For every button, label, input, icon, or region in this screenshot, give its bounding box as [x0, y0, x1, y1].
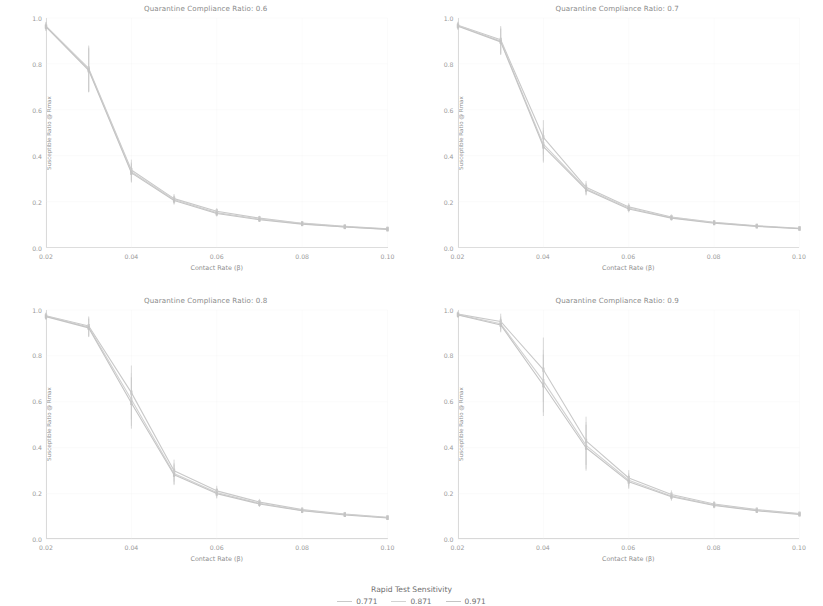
y-tick-label: 0.2 — [32, 198, 42, 205]
y-tick-label: 0.4 — [444, 444, 454, 451]
legend-item[interactable]: 0.971 — [446, 597, 486, 606]
panel-title: Quarantine Compliance Ratio: 0.7 — [412, 4, 823, 13]
x-tick-label: 0.02 — [451, 253, 465, 260]
facet-panel-1: Quarantine Compliance Ratio: 0.7 Suscept… — [412, 0, 823, 292]
x-tick-label: 0.10 — [381, 544, 395, 551]
x-tick-label: 0.10 — [792, 544, 806, 551]
y-tick-label: 0.6 — [444, 106, 454, 113]
y-tick-label: 0.4 — [32, 444, 42, 451]
x-tick-label: 0.02 — [39, 253, 53, 260]
panel-title: Quarantine Compliance Ratio: 0.8 — [0, 296, 412, 305]
x-tick-label: 0.04 — [124, 544, 138, 551]
plot-canvas — [458, 310, 800, 540]
legend-line-icon — [337, 601, 352, 602]
y-tick-label: 1.0 — [444, 306, 454, 313]
y-tick-label: 1.0 — [32, 306, 42, 313]
facet-panel-3: Quarantine Compliance Ratio: 0.9 Suscept… — [412, 292, 823, 584]
y-tick-label: 0.8 — [32, 60, 42, 67]
plot-canvas — [458, 18, 800, 248]
x-axis-label: Contact Rate (β) — [46, 264, 388, 272]
facet-panel-2: Quarantine Compliance Ratio: 0.8 Suscept… — [0, 292, 412, 584]
x-tick-label: 0.10 — [381, 253, 395, 260]
x-tick-label: 0.08 — [707, 544, 721, 551]
x-tick-label: 0.04 — [124, 253, 138, 260]
plot-canvas — [46, 310, 388, 540]
x-axis-label: Contact Rate (β) — [458, 555, 800, 563]
facet-panel-0: Quarantine Compliance Ratio: 0.6 Suscept… — [0, 0, 412, 292]
x-axis-label: Contact Rate (β) — [458, 264, 800, 272]
y-tick-label: 0.0 — [32, 536, 42, 543]
plot-area: Susceptible Ratio @ Rmax 0.00.20.40.60.8… — [458, 310, 800, 540]
legend-items: 0.7710.8710.971 — [337, 597, 486, 606]
y-tick-label: 0.2 — [444, 490, 454, 497]
legend-item-label: 0.771 — [356, 597, 377, 606]
legend-title: Rapid Test Sensitivity — [371, 585, 452, 594]
y-tick-label: 0.6 — [32, 398, 42, 405]
y-tick-label: 1.0 — [32, 15, 42, 22]
plot-canvas — [46, 18, 388, 248]
x-tick-label: 0.08 — [295, 544, 309, 551]
y-tick-label: 0.2 — [32, 490, 42, 497]
panel-title: Quarantine Compliance Ratio: 0.6 — [0, 4, 412, 13]
plot-area: Susceptible Ratio @ Rmax 0.00.20.40.60.8… — [46, 310, 388, 540]
x-tick-label: 0.04 — [536, 253, 550, 260]
legend-item[interactable]: 0.771 — [337, 597, 377, 606]
y-tick-label: 0.8 — [32, 352, 42, 359]
y-tick-label: 0.2 — [444, 198, 454, 205]
y-tick-label: 0.0 — [444, 244, 454, 251]
x-tick-label: 0.02 — [451, 544, 465, 551]
x-tick-label: 0.10 — [792, 253, 806, 260]
plot-area: Susceptible Ratio @ Rmax 0.00.20.40.60.8… — [458, 18, 800, 248]
x-tick-label: 0.04 — [536, 544, 550, 551]
legend-item[interactable]: 0.871 — [391, 597, 431, 606]
legend-line-icon — [446, 601, 461, 602]
x-tick-label: 0.06 — [210, 253, 224, 260]
y-tick-label: 1.0 — [444, 15, 454, 22]
x-tick-label: 0.02 — [39, 544, 53, 551]
y-tick-label: 0.6 — [32, 106, 42, 113]
x-tick-label: 0.08 — [295, 253, 309, 260]
y-tick-label: 0.0 — [32, 244, 42, 251]
legend-item-label: 0.871 — [410, 597, 431, 606]
legend-line-icon — [391, 601, 406, 602]
x-tick-label: 0.08 — [707, 253, 721, 260]
y-tick-label: 0.4 — [32, 152, 42, 159]
y-tick-label: 0.8 — [444, 352, 454, 359]
legend: Rapid Test Sensitivity 0.7710.8710.971 — [0, 583, 823, 606]
legend-item-label: 0.971 — [465, 597, 486, 606]
figure-facet-grid: Quarantine Compliance Ratio: 0.6 Suscept… — [0, 0, 823, 606]
y-tick-label: 0.0 — [444, 536, 454, 543]
y-tick-label: 0.6 — [444, 398, 454, 405]
y-tick-label: 0.8 — [444, 60, 454, 67]
plot-area: Susceptible Ratio @ Rmax 0.00.20.40.60.8… — [46, 18, 388, 248]
x-tick-label: 0.06 — [621, 253, 635, 260]
y-tick-label: 0.4 — [444, 152, 454, 159]
x-axis-label: Contact Rate (β) — [46, 555, 388, 563]
x-tick-label: 0.06 — [210, 544, 224, 551]
panel-title: Quarantine Compliance Ratio: 0.9 — [412, 296, 823, 305]
x-tick-label: 0.06 — [621, 544, 635, 551]
